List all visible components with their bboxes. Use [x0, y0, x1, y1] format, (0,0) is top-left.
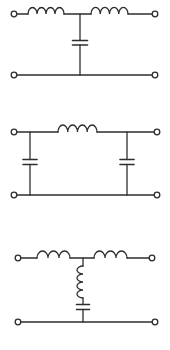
terminal	[11, 72, 17, 78]
circuit-canvas	[0, 0, 170, 350]
terminal	[149, 255, 155, 261]
terminal	[11, 129, 17, 135]
terminal	[152, 72, 158, 78]
shunt-inductor	[77, 266, 83, 298]
series-inductor	[91, 7, 128, 14]
series-inductor	[58, 125, 97, 132]
terminal	[15, 255, 21, 261]
terminal	[152, 319, 158, 325]
series-inductor	[28, 8, 64, 14]
filter-1-t-section-series-l-shunt-c	[11, 7, 158, 77]
terminal	[154, 192, 160, 198]
terminal	[11, 192, 17, 198]
terminal	[15, 319, 21, 325]
series-inductor	[37, 251, 70, 258]
series-inductor	[94, 251, 127, 258]
terminal	[152, 11, 158, 17]
terminal	[154, 129, 160, 135]
filter-3-t-section-series-lc-shunt	[15, 251, 158, 325]
filter-2-pi-section-shunt-c-series-l	[11, 125, 160, 198]
scanned-filter-circuits-page	[0, 0, 170, 350]
terminal	[11, 11, 17, 17]
